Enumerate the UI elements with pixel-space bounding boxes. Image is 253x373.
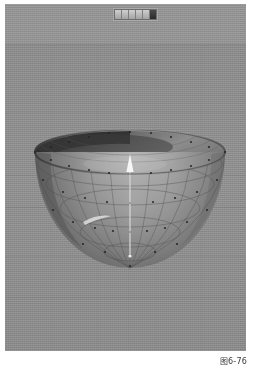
perspective-viewport[interactable] [5, 4, 246, 351]
hemisphere-geometry [5, 4, 246, 351]
hemisphere-bowl-model[interactable] [5, 4, 246, 351]
toolbar-button-5[interactable] [143, 10, 150, 19]
toolbar-button-active[interactable] [150, 10, 156, 19]
toolbar-button-3[interactable] [129, 10, 136, 19]
toolbar-button-1[interactable] [115, 10, 122, 19]
figure-caption: 图6-76 [220, 355, 247, 366]
toolbar-button-4[interactable] [136, 10, 143, 19]
viewport-toolbar[interactable] [114, 9, 157, 20]
figure-page: 图6-76 [0, 0, 253, 373]
toolbar-button-2[interactable] [122, 10, 129, 19]
